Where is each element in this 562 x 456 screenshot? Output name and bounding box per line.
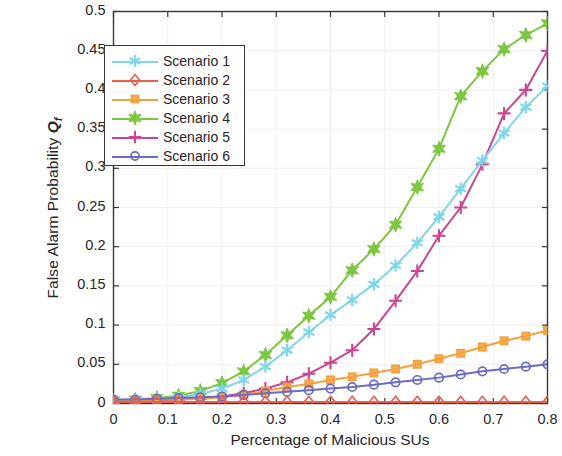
legend-label: Scenario 2 xyxy=(163,72,230,88)
data-point-marker-asterisk xyxy=(325,309,336,321)
data-point-marker-asterisk xyxy=(130,55,140,67)
data-point-marker-asterisk xyxy=(260,360,271,372)
y-tick-label: 0.45 xyxy=(46,41,106,57)
data-point-marker-plus xyxy=(302,367,315,380)
y-tick-label: 0 xyxy=(46,394,106,410)
data-point-marker-square xyxy=(414,361,421,368)
data-point-marker-square xyxy=(327,376,334,383)
y-tick-label: 0.25 xyxy=(46,198,106,214)
y-tick-label: 0.1 xyxy=(46,315,106,331)
x-tick-label: 0.1 xyxy=(143,411,193,427)
y-tick-label: 0.4 xyxy=(46,80,106,96)
legend-marker-hexagram-icon xyxy=(112,108,158,128)
data-point-marker-square xyxy=(500,337,507,344)
y-tick-label: 0.05 xyxy=(46,354,106,370)
legend-item-scenario-6[interactable]: Scenario 6 xyxy=(105,146,246,166)
legend-marker-asterisk-icon xyxy=(112,51,158,71)
legend-item-scenario-1[interactable]: Scenario 1 xyxy=(105,51,246,71)
data-point-marker-diamond xyxy=(131,75,140,86)
y-tick-label: 0.15 xyxy=(46,276,106,292)
data-point-marker-square xyxy=(392,365,399,372)
data-point-marker-square xyxy=(370,369,377,376)
legend-item-scenario-3[interactable]: Scenario 3 xyxy=(105,89,246,109)
legend-marker-circle-icon xyxy=(112,146,158,166)
data-point-marker-plus xyxy=(541,44,554,57)
x-tick-label: 0.7 xyxy=(468,411,518,427)
legend-label: Scenario 1 xyxy=(163,53,230,69)
legend-swatch xyxy=(112,146,158,166)
legend-swatch xyxy=(112,127,158,147)
data-point-marker-square xyxy=(131,95,138,102)
data-point-marker-square xyxy=(522,332,529,339)
legend-item-scenario-5[interactable]: Scenario 5 xyxy=(105,127,246,147)
legend-label: Scenario 5 xyxy=(163,129,230,145)
data-point-marker-hexagram xyxy=(541,16,554,31)
data-point-marker-circle xyxy=(131,152,139,160)
x-tick-label: 0.4 xyxy=(306,411,356,427)
x-tick-label: 0 xyxy=(89,411,139,427)
data-point-marker-asterisk xyxy=(347,294,358,306)
data-point-marker-hexagram xyxy=(411,180,424,195)
legend-marker-plus-icon xyxy=(112,127,158,147)
y-tick-label: 0.5 xyxy=(46,2,106,18)
data-point-marker-square xyxy=(457,350,464,357)
x-tick-label: 0.8 xyxy=(523,411,562,427)
y-tick-label: 0.2 xyxy=(46,237,106,253)
legend-item-scenario-2[interactable]: Scenario 2 xyxy=(105,70,246,90)
x-tick-label: 0.6 xyxy=(414,411,464,427)
data-point-marker-plus xyxy=(129,131,141,143)
data-point-marker-square xyxy=(349,373,356,380)
legend-marker-diamond-icon xyxy=(112,70,158,90)
x-tick-label: 0.3 xyxy=(251,411,301,427)
legend: Scenario 1Scenario 2Scenario 3Scenario 4… xyxy=(104,45,245,166)
x-axis-label: Percentage of Malicious SUs xyxy=(113,431,547,449)
data-point-marker-plus xyxy=(324,356,337,369)
legend-marker-square-icon xyxy=(112,89,158,109)
data-point-marker-square xyxy=(544,327,551,334)
y-tick-label: 0.3 xyxy=(46,158,106,174)
data-point-marker-square xyxy=(435,355,442,362)
legend-item-scenario-4[interactable]: Scenario 4 xyxy=(105,108,246,128)
legend-swatch xyxy=(112,51,158,71)
legend-swatch xyxy=(112,70,158,90)
legend-label: Scenario 6 xyxy=(163,148,230,164)
data-point-marker-square xyxy=(479,343,486,350)
data-point-marker-hexagram xyxy=(433,141,446,156)
legend-label: Scenario 3 xyxy=(163,91,230,107)
data-point-marker-hexagram xyxy=(519,28,532,43)
y-tick-label: 0.35 xyxy=(46,119,106,135)
data-point-marker-asterisk xyxy=(238,374,249,386)
data-point-marker-hexagram xyxy=(129,111,141,125)
x-tick-label: 0.5 xyxy=(360,411,410,427)
legend-label: Scenario 4 xyxy=(163,110,230,126)
legend-swatch xyxy=(112,89,158,109)
legend-swatch xyxy=(112,108,158,128)
x-tick-label: 0.2 xyxy=(197,411,247,427)
